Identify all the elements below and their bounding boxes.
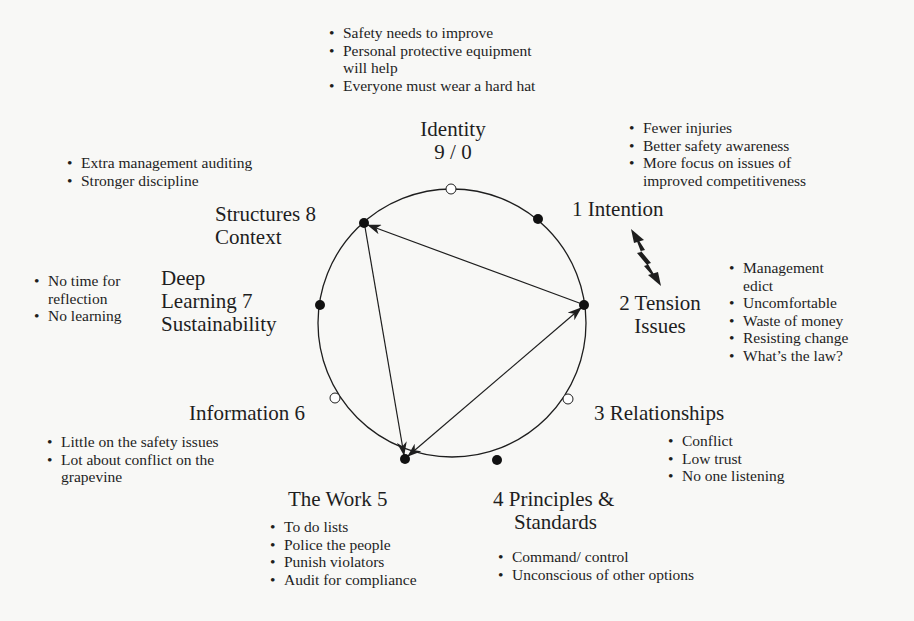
note-item: More focus on issues of bbox=[626, 154, 806, 172]
note-item: To do lists bbox=[267, 518, 417, 536]
label-deep-learning-3: Sustainability bbox=[161, 313, 277, 336]
label-tension: 2 Tension Issues bbox=[607, 292, 713, 338]
label-relationships: 3 Relationships bbox=[594, 402, 724, 425]
note-item: Low trust bbox=[665, 450, 784, 468]
note-item: reflection bbox=[31, 290, 122, 308]
note-item: Fewer injuries bbox=[626, 119, 806, 137]
note-item: Police the people bbox=[267, 536, 417, 554]
note-item: Uncomfortable bbox=[726, 294, 848, 312]
note-item: Safety needs to improve bbox=[326, 24, 535, 42]
notes-identity: Safety needs to improve Personal protect… bbox=[326, 24, 535, 94]
node-identity-open bbox=[446, 184, 456, 194]
notes-information: Little on the safety issues Lot about co… bbox=[44, 433, 219, 486]
note-item: Little on the safety issues bbox=[44, 433, 219, 451]
note-item: Punish violators bbox=[267, 553, 417, 571]
label-identity-title: Identity bbox=[405, 118, 501, 141]
note-item: Extra management auditing bbox=[64, 154, 252, 172]
note-item: Unconscious of other options bbox=[495, 566, 694, 584]
note-item: Better safety awareness bbox=[626, 137, 806, 155]
label-deep-learning-2: Learning 7 bbox=[161, 290, 277, 313]
label-tension-sub: Issues bbox=[607, 315, 713, 338]
lightning-arrow-icon bbox=[631, 229, 661, 286]
label-deep-learning-1: Deep bbox=[161, 267, 277, 290]
node-deep-learning bbox=[315, 300, 325, 310]
note-item: improved competitiveness bbox=[626, 172, 806, 190]
notes-intention: Fewer injuries Better safety awareness M… bbox=[626, 119, 806, 189]
note-item: Resisting change bbox=[726, 329, 848, 347]
label-principles-sub: Standards bbox=[493, 511, 614, 534]
note-item: Audit for compliance bbox=[267, 571, 417, 589]
label-intention: 1 Intention bbox=[572, 198, 664, 221]
label-principles-title: 4 Principles & bbox=[493, 488, 614, 511]
node-relationships-open bbox=[563, 394, 573, 404]
node-information-open bbox=[330, 393, 340, 403]
notes-structures: Extra management auditing Stronger disci… bbox=[64, 154, 252, 189]
arrow-structures-to-work bbox=[365, 227, 404, 455]
note-item: edict bbox=[726, 277, 848, 295]
arrow-tension-to-structures bbox=[368, 225, 582, 304]
node-principles bbox=[492, 455, 502, 465]
label-tension-title: 2 Tension bbox=[607, 292, 713, 315]
note-item: Waste of money bbox=[726, 312, 848, 330]
note-item: No time for bbox=[31, 272, 122, 290]
node-tension bbox=[579, 300, 589, 310]
note-item: Stronger discipline bbox=[64, 172, 252, 190]
note-item: Lot about conflict on the bbox=[44, 451, 219, 469]
node-work bbox=[400, 454, 410, 464]
note-item: No one listening bbox=[665, 467, 784, 485]
label-information: Information 6 bbox=[160, 402, 305, 425]
notes-deep-learning: No time for reflection No learning bbox=[31, 272, 122, 325]
note-item: Everyone must wear a hard hat bbox=[326, 77, 535, 95]
label-identity: Identity 9 / 0 bbox=[405, 118, 501, 164]
notes-tension: Management edict Uncomfortable Waste of … bbox=[726, 259, 848, 364]
note-item: grapevine bbox=[44, 468, 219, 486]
label-identity-number: 9 / 0 bbox=[405, 141, 501, 164]
arrow-work-tension-bidirectional bbox=[408, 308, 581, 456]
note-item: What’s the law? bbox=[726, 347, 848, 365]
note-item: No learning bbox=[31, 307, 122, 325]
note-item: Personal protective equipment bbox=[326, 42, 535, 60]
note-item: Conflict bbox=[665, 432, 784, 450]
label-structures: Structures 8 Context bbox=[215, 203, 316, 249]
note-item: Command/ control bbox=[495, 548, 694, 566]
note-item: Management bbox=[726, 259, 848, 277]
label-deep-learning: Deep Learning 7 Sustainability bbox=[161, 267, 277, 336]
label-structures-title: Structures 8 bbox=[215, 203, 316, 226]
label-work: The Work 5 bbox=[288, 488, 387, 511]
notes-relationships: Conflict Low trust No one listening bbox=[665, 432, 784, 485]
note-item: will help bbox=[326, 59, 535, 77]
label-principles: 4 Principles & Standards bbox=[493, 488, 614, 534]
cycle-circle bbox=[318, 189, 586, 457]
node-intention bbox=[533, 214, 543, 224]
notes-work: To do lists Police the people Punish vio… bbox=[267, 518, 417, 588]
notes-principles: Command/ control Unconscious of other op… bbox=[495, 548, 694, 583]
label-structures-sub: Context bbox=[215, 226, 316, 249]
node-structures bbox=[359, 218, 369, 228]
